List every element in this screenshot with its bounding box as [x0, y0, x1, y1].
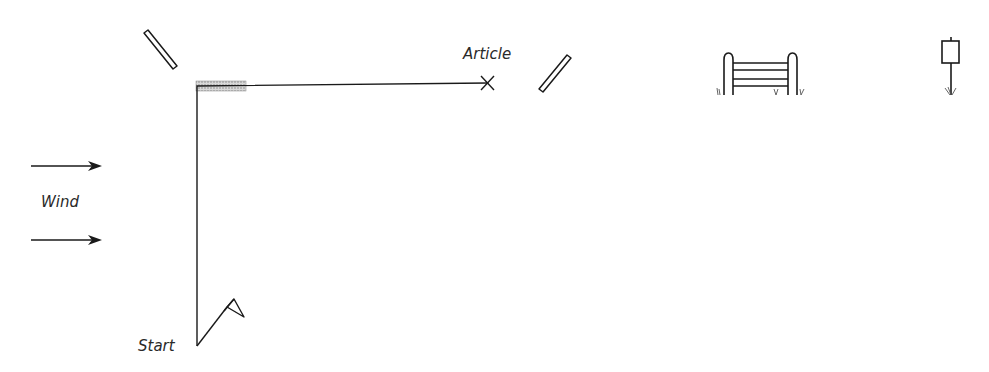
arrow-right-icon	[31, 235, 102, 245]
arrow-right-icon	[31, 161, 102, 171]
track-line	[197, 83, 488, 346]
signpost-icon	[942, 37, 959, 95]
article-label: Article	[463, 45, 511, 63]
pole-icon	[539, 55, 571, 92]
pole-icon	[144, 30, 177, 69]
start-label: Start	[138, 337, 175, 355]
wind-label: Wind	[41, 193, 79, 211]
fence-gate-icon	[717, 53, 804, 95]
start-flag-icon	[197, 299, 244, 346]
